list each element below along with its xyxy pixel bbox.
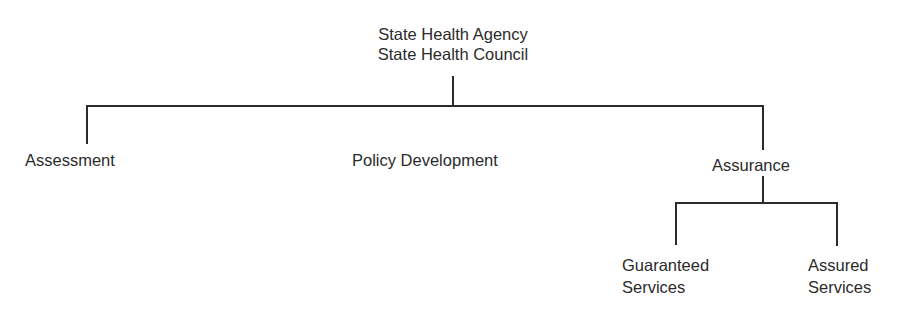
root-line-1: State Health Agency — [350, 24, 556, 44]
guaranteed-line-1: Guaranteed — [622, 254, 709, 276]
assured-line-1: Assured — [808, 254, 871, 276]
node-assured-services: Assured Services — [808, 254, 871, 298]
node-assessment: Assessment — [25, 150, 115, 170]
node-assurance: Assurance — [712, 155, 790, 175]
node-policy-development: Policy Development — [352, 150, 498, 170]
assured-line-2: Services — [808, 276, 871, 298]
node-guaranteed-services: Guaranteed Services — [622, 254, 709, 298]
root-line-2: State Health Council — [350, 44, 556, 64]
guaranteed-line-2: Services — [622, 276, 709, 298]
root-node: State Health Agency State Health Council — [350, 24, 556, 64]
